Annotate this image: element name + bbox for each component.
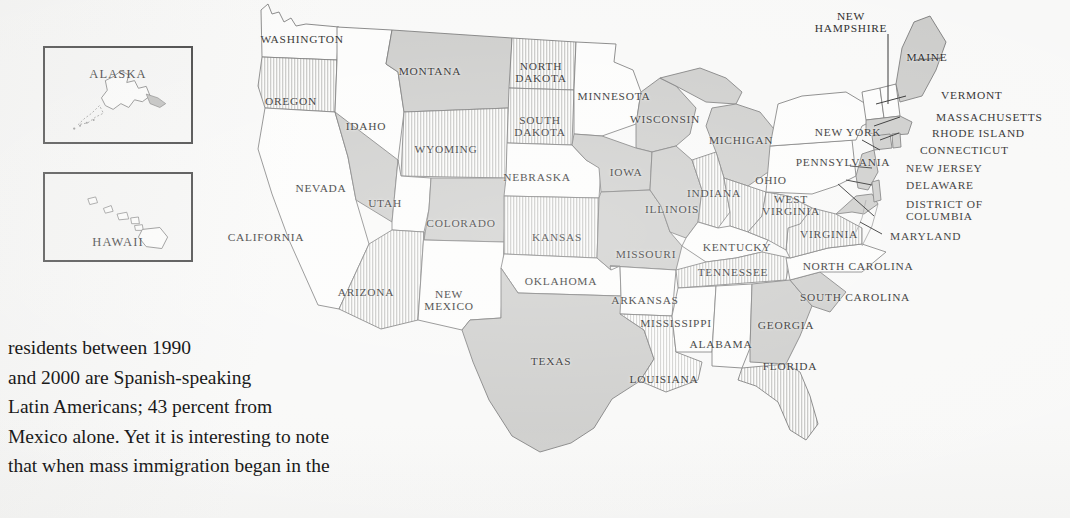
callout-label-maryland: MARYLAND	[890, 230, 961, 242]
state-label-illinois: ILLINOIS	[645, 203, 699, 215]
state-label-tennessee: TENNESSEE	[698, 266, 769, 278]
state-label-kentucky: KENTUCKY	[703, 241, 772, 253]
state-label-indiana: INDIANA	[687, 187, 741, 199]
state-label-new-york: NEW YORK	[815, 126, 881, 138]
state-label-california: CALIFORNIA	[228, 231, 304, 243]
body-text-line: and 2000 are Spanish-speaking	[8, 363, 608, 393]
state-label-kansas: KANSAS	[532, 231, 582, 243]
state-label-colorado: COLORADO	[426, 217, 495, 229]
body-paragraph: residents between 1990and 2000 are Spani…	[8, 333, 608, 481]
state-label-nevada: NEVADA	[295, 182, 346, 194]
state-shape-maryland	[836, 194, 878, 214]
state-label-west-virginia: WEST VIRGINIA	[762, 193, 820, 218]
state-label-new-hampshire: NEW HAMPSHIRE	[815, 10, 888, 35]
callout-label-rhode-island: RHODE ISLAND	[932, 127, 1025, 139]
inset-box-alaska: ALASKA	[43, 46, 193, 144]
callout-label-vermont: VERMONT	[941, 89, 1003, 101]
callout-label-district-of-columbia: DISTRICT OF COLUMBIA	[906, 198, 983, 223]
state-label-south-carolina: SOUTH CAROLINA	[800, 291, 910, 303]
callout-label-delaware: DELAWARE	[906, 179, 974, 191]
callout-label-massachusetts: MASSACHUSETTS	[936, 111, 1043, 123]
inset-label-hawaii: HAWAII	[45, 235, 191, 250]
state-label-south-dakota: SOUTH DAKOTA	[514, 114, 566, 139]
callout-label-new-jersey: NEW JERSEY	[906, 162, 983, 174]
state-label-north-carolina: NORTH CAROLINA	[803, 260, 914, 272]
state-label-minnesota: MINNESOTA	[578, 90, 651, 102]
state-label-michigan: MICHIGAN	[709, 134, 773, 146]
state-label-maine: MAINE	[906, 51, 947, 63]
state-label-virginia: VIRGINIA	[800, 228, 858, 240]
state-label-florida: FLORIDA	[763, 360, 818, 372]
state-label-louisiana: LOUISIANA	[630, 373, 699, 385]
body-text-line: Latin Americans; 43 percent from	[8, 392, 608, 422]
state-label-missouri: MISSOURI	[616, 248, 676, 260]
state-shape-delaware	[872, 180, 881, 202]
state-label-oklahoma: OKLAHOMA	[525, 275, 597, 287]
state-shape-alabama	[712, 284, 752, 368]
state-label-alabama: ALABAMA	[690, 338, 753, 350]
state-label-north-dakota: NORTH DAKOTA	[515, 60, 567, 85]
body-text-line: residents between 1990	[8, 333, 608, 363]
state-label-utah: UTAH	[368, 197, 402, 209]
state-shape-florida	[738, 364, 818, 440]
state-shape-colorado	[424, 178, 506, 242]
state-shape-kansas	[504, 196, 599, 258]
state-label-ohio: OHIO	[755, 174, 786, 186]
state-label-washington: WASHINGTON	[260, 33, 343, 45]
state-label-georgia: GEORGIA	[758, 319, 815, 331]
leader-maryland	[860, 222, 882, 234]
state-label-mississippi: MISSISSIPPI	[640, 317, 712, 329]
state-label-wisconsin: WISCONSIN	[630, 113, 700, 125]
state-label-nebraska: NEBRASKA	[503, 171, 570, 183]
body-text-line: Mexico alone. Yet it is interesting to n…	[8, 422, 608, 452]
alaska-shape	[45, 48, 191, 142]
inset-label-alaska: ALASKA	[45, 67, 191, 82]
callout-label-connecticut: CONNECTICUT	[920, 144, 1009, 156]
state-label-idaho: IDAHO	[346, 120, 386, 132]
state-shape-new-mexico	[418, 232, 504, 330]
state-label-iowa: IOWA	[610, 166, 643, 178]
state-label-wyoming: WYOMING	[415, 143, 478, 155]
inset-box-hawaii: HAWAII	[43, 172, 193, 262]
state-label-pennsylvania: PENNSYLVANIA	[796, 156, 890, 168]
state-label-arizona: ARIZONA	[338, 286, 395, 298]
state-label-montana: MONTANA	[399, 65, 462, 77]
state-label-new-mexico: NEW MEXICO	[424, 288, 473, 313]
state-label-oregon: OREGON	[265, 95, 317, 107]
state-label-arkansas: ARKANSAS	[611, 294, 678, 306]
body-text-line: that when mass immigration began in the	[8, 451, 608, 481]
